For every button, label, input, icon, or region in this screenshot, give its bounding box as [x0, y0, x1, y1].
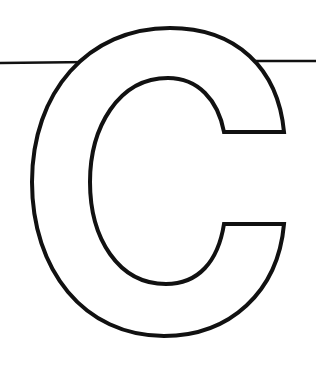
outline-letter-c-graphic [0, 0, 316, 367]
cropped-header-text [0, 0, 316, 3]
letter-c-artwork [0, 0, 316, 367]
letter-c-outline [32, 28, 284, 336]
